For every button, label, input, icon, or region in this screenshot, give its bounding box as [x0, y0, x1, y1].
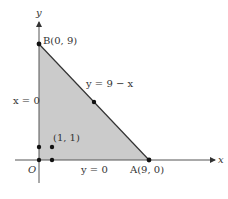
point-origin: [37, 158, 41, 162]
left-edge-label: x = 0: [13, 95, 40, 106]
point-one-one-label: (1, 1): [53, 132, 80, 143]
region-diagram: y x O B(0, 9) A(9, 0) (1, 1) y = 9 − x x…: [0, 0, 228, 199]
hypotenuse-label: y = 9 − x: [85, 78, 133, 89]
y-axis-label: y: [35, 7, 42, 18]
bottom-edge-label: y = 0: [80, 164, 108, 175]
point-b-label: B(0, 9): [43, 35, 77, 46]
point-on-hypotenuse: [92, 100, 96, 104]
x-axis-label: x: [218, 154, 224, 165]
tick-y-one: [37, 145, 41, 149]
origin-label: O: [28, 164, 36, 175]
point-a: [147, 158, 152, 163]
point-one-one: [50, 145, 54, 149]
tick-x-one: [50, 158, 54, 162]
point-a-label: A(9, 0): [129, 164, 164, 175]
point-b: [37, 42, 42, 47]
